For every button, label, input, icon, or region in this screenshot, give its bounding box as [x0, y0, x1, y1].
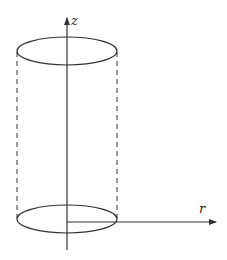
z-axis-label: z: [70, 13, 78, 28]
r-axis-label: r: [199, 201, 206, 216]
cylinder-diagram: z r: [0, 0, 227, 260]
